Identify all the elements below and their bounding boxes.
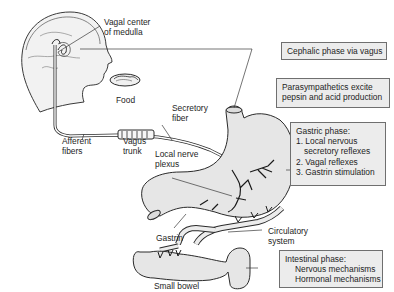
box-title: Gastric phase: bbox=[296, 126, 380, 136]
label-vagus-trunk: Vagus trunk bbox=[123, 136, 146, 156]
label-line: Vagal center bbox=[104, 17, 150, 27]
box-text: Parasympathetics excite bbox=[282, 82, 384, 92]
label-line: fiber bbox=[172, 113, 208, 123]
box-text: Cephalic phase via vagus bbox=[287, 46, 381, 56]
label-line: Secretory bbox=[172, 103, 208, 113]
label-line: trunk bbox=[123, 146, 146, 156]
label-vagal-center: Vagal center of medulla bbox=[104, 17, 150, 37]
box-parasympathetics: Parasympathetics excite pepsin and acid … bbox=[276, 78, 390, 108]
box-text: pepsin and acid production bbox=[282, 92, 384, 102]
label-gastrin: Gastrin bbox=[156, 233, 183, 243]
label-food: Food bbox=[116, 95, 135, 105]
box-item: secretory reflexes bbox=[296, 146, 380, 156]
label-line: Afferent bbox=[62, 136, 91, 146]
label-secretory-fiber: Secretory fiber bbox=[172, 103, 208, 123]
label-line: Circulatory bbox=[268, 226, 308, 236]
label-circulatory-system: Circulatory system bbox=[268, 226, 308, 246]
label-local-nerve-plexus: Local nerve plexus bbox=[155, 149, 198, 169]
label-line: plexus bbox=[155, 159, 198, 169]
box-item: 1. Local nervous bbox=[296, 136, 380, 146]
food-icon bbox=[110, 74, 140, 86]
box-item: Hormonal mechanisms bbox=[285, 274, 377, 284]
label-line: system bbox=[268, 236, 308, 246]
box-intestinal-phase: Intestinal phase: Nervous mechanisms Hor… bbox=[279, 250, 383, 288]
box-title: Intestinal phase: bbox=[285, 254, 377, 264]
box-item: 2. Vagal reflexes bbox=[296, 157, 380, 167]
box-item: 3. Gastrin stimulation bbox=[296, 167, 380, 177]
label-line: Vagus bbox=[123, 136, 146, 146]
box-cephalic-phase: Cephalic phase via vagus bbox=[281, 42, 387, 60]
label-line: Local nerve bbox=[155, 149, 198, 159]
box-gastric-phase: Gastric phase: 1. Local nervous secretor… bbox=[290, 122, 386, 186]
label-afferent-fibers: Afferent fibers bbox=[62, 136, 91, 156]
label-line: of medulla bbox=[104, 27, 150, 37]
box-item: Nervous mechanisms bbox=[285, 264, 377, 274]
label-line: fibers bbox=[62, 146, 91, 156]
label-small-bowel: Small bowel bbox=[154, 281, 199, 291]
